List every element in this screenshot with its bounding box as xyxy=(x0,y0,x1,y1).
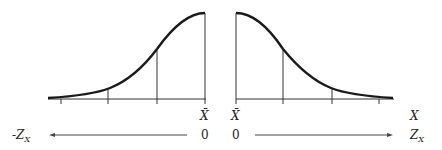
right-arrowhead-icon xyxy=(387,133,393,137)
left-curve xyxy=(48,13,205,98)
left-mean-label: X̄ xyxy=(200,110,209,122)
neg-z-subscript: X xyxy=(24,135,30,144)
left-panel xyxy=(48,13,206,137)
left-zero-label: 0 xyxy=(201,129,209,141)
right-zero-label: 0 xyxy=(232,129,240,141)
right-curve xyxy=(236,13,393,98)
neg-z-label: -ZX xyxy=(12,129,30,143)
z-label: ZX xyxy=(410,129,424,143)
z-subscript: X xyxy=(418,135,424,144)
right-panel xyxy=(236,13,394,137)
right-mean-label: X̄ xyxy=(231,110,240,122)
normal-curve-diagram xyxy=(0,0,442,150)
left-arrowhead-icon xyxy=(49,133,55,137)
neg-z-text: -Z xyxy=(12,128,24,142)
x-label: X xyxy=(410,110,419,122)
